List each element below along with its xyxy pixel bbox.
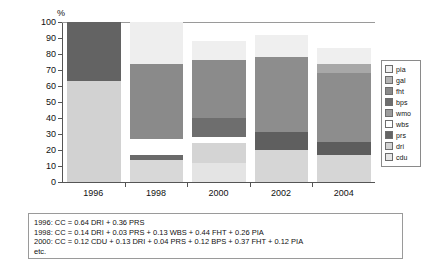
x-axis-tick-label: 1998 [125,188,188,202]
bar-segment-pia[interactable] [317,48,371,64]
legend-item-gal[interactable]: gal [385,75,418,85]
bar-segment-dri[interactable] [255,150,309,182]
bar-slot [125,22,187,182]
bar-slot [63,22,125,182]
bar-segment-dri[interactable] [192,143,246,163]
y-axis-tick-label: 40 [30,114,56,123]
legend-item-label: prs [396,132,406,139]
y-axis-tick-label: 50 [30,98,56,107]
stacked-bar[interactable] [317,48,371,182]
legend-swatch-icon [385,109,393,117]
bar-segment-dri[interactable] [67,81,121,182]
caption-line: etc. [34,247,397,257]
x-axis-tick-label: 2002 [250,188,313,202]
x-axis-separator [187,182,188,187]
legend-swatch-icon [385,65,393,73]
y-axis-tick-label: 20 [30,146,56,155]
bar-segment-fht[interactable] [317,73,371,142]
x-axis-line [62,182,375,183]
legend-swatch-icon [385,87,393,95]
bar-segment-pia[interactable] [255,35,309,57]
bar-segment-dri[interactable] [317,155,371,182]
y-axis-tick-label: 30 [30,130,56,139]
y-axis-tick-label: 100 [30,18,56,27]
bar-segment-prs[interactable] [67,22,121,81]
y-axis-tick-label: 90 [30,34,56,43]
bar-segment-wbs[interactable] [130,139,184,155]
legend-swatch-icon [385,142,393,150]
legend-item-label: pia [396,66,406,73]
caption-line: 2000: CC = 0.12 CDU + 0.13 DRI + 0.04 PR… [34,237,397,247]
legend-item-dri[interactable]: dri [385,141,418,151]
legend-swatch-icon [385,131,393,139]
legend-item-label: cdu [396,154,408,161]
bar-slot [188,22,250,182]
stacked-bar[interactable] [192,41,246,182]
stacked-bar[interactable] [130,22,184,182]
legend-item-bps[interactable]: bps [385,97,418,107]
legend-swatch-icon [385,76,393,84]
legend-item-label: fht [396,88,404,95]
legend-item-label: wbs [396,121,409,128]
y-axis-tick-label: 60 [30,82,56,91]
y-axis-tick-labels: 1009080706050403020100 [28,0,56,200]
y-axis-tick-label: 0 [30,178,56,187]
caption-line: 1996: CC = 0.64 DRI + 0.36 PRS [34,218,397,228]
x-axis-tick-labels: 19961998200020022004 [62,188,375,202]
legend-item-label: dri [396,143,404,150]
legend-swatch-icon [385,98,393,106]
caption-box: 1996: CC = 0.64 DRI + 0.36 PRS1998: CC =… [28,213,403,259]
bar-slot [250,22,312,182]
bar-segment-pia[interactable] [130,22,184,64]
legend-item-wmo[interactable]: wmo [385,108,418,118]
y-axis-unit-label: % [57,8,65,18]
legend-item-pia[interactable]: pia [385,64,418,74]
legend-item-label: gal [396,77,406,84]
bar-segment-dri[interactable] [130,160,184,182]
legend-item-prs[interactable]: prs [385,130,418,140]
y-axis-tick-label: 10 [30,162,56,171]
legend-item-fht[interactable]: fht [385,86,418,96]
stacked-bar[interactable] [255,35,309,182]
bar-segment-wmo[interactable] [255,57,309,132]
legend-item-cdu[interactable]: cdu [385,152,418,162]
y-axis-tick-label: 70 [30,66,56,75]
bar-segment-bps[interactable] [192,118,246,137]
stacked-bar[interactable] [67,22,121,182]
stacked-bar-chart: % 1009080706050403020100 199619982000200… [0,0,431,200]
bar-segment-fht[interactable] [130,64,184,139]
legend-item-label: bps [396,99,408,106]
legend-swatch-icon [385,153,393,161]
bar-segment-wmo[interactable] [317,64,371,74]
x-axis-separator [250,182,251,187]
bar-slot [313,22,375,182]
x-axis-tick-label: 2004 [312,188,375,202]
x-axis-separator [312,182,313,187]
legend-item-wbs[interactable]: wbs [385,119,418,129]
bar-segment-prs[interactable] [317,142,371,155]
caption-line: 1998: CC = 0.14 DRI + 0.03 PRS + 0.13 WB… [34,228,397,238]
bar-segment-prs[interactable] [255,132,309,150]
legend-item-label: wmo [396,110,411,117]
x-axis-tick-label: 1996 [62,188,125,202]
legend-swatch-icon [385,120,393,128]
bar-segment-pia[interactable] [192,41,246,60]
plot-area [63,22,375,182]
bar-segment-fht[interactable] [192,60,246,118]
x-axis-tick-label: 2000 [187,188,250,202]
bar-segment-cdu[interactable] [192,163,246,182]
y-axis-tick-label: 80 [30,50,56,59]
x-axis-separator [125,182,126,187]
legend: piagalfhtbpswmowbsprsdricdu [381,60,421,167]
